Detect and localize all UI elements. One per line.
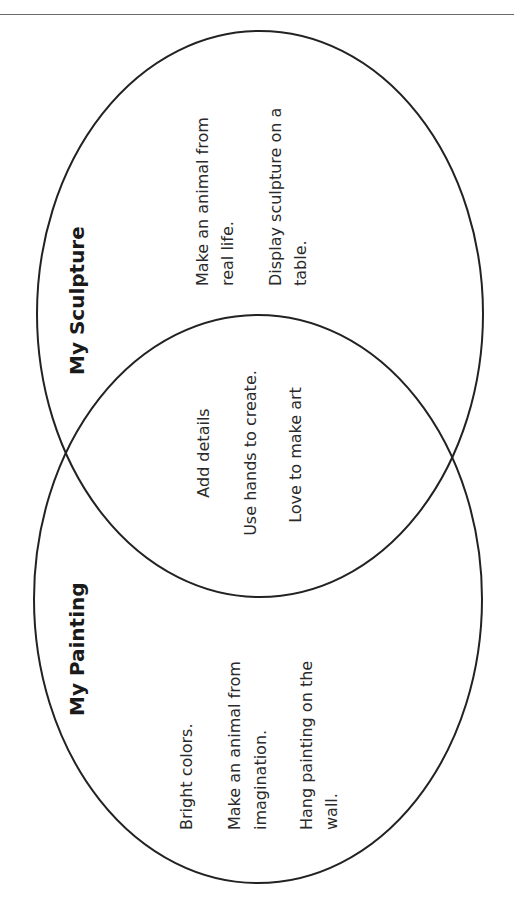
painting-title: My Painting — [65, 582, 89, 716]
painting-item-1-line-1: Bright colors. — [177, 724, 196, 830]
sculpture-item-2-line-1: Display sculpture on a — [266, 108, 285, 286]
painting-items: Bright colors. Make an animal from imagi… — [177, 661, 341, 830]
painting-item-2-line-1: Make an animal from — [225, 661, 244, 830]
overlap-item-2: Use hands to create. — [241, 370, 260, 536]
sculpture-item-2-line-2: table. — [291, 240, 310, 286]
painting-item-2-line-2: imagination. — [251, 730, 270, 830]
sculpture-items: Make an animal from real life. Display s… — [193, 108, 310, 286]
sculpture-circle — [37, 31, 483, 597]
venn-diagram: My Sculpture My Painting Make an animal … — [0, 0, 514, 914]
painting-item-3-line-1: Hang painting on the — [297, 661, 316, 830]
sculpture-item-1-line-2: real life. — [218, 221, 237, 286]
sculpture-title: My Sculpture — [65, 226, 89, 375]
overlap-items: Add details Use hands to create. Love to… — [194, 370, 305, 536]
painting-item-3-line-2: wall. — [322, 793, 341, 830]
sculpture-item-1-line-1: Make an animal from — [193, 117, 212, 286]
overlap-item-1: Add details — [194, 408, 213, 497]
overlap-item-3: Love to make art — [286, 387, 305, 523]
